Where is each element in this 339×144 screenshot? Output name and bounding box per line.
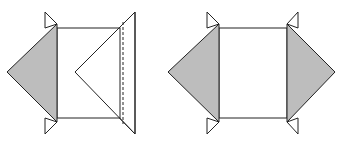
square-face xyxy=(219,28,287,118)
right-shaded-triangle xyxy=(287,24,335,122)
left-shaded-triangle xyxy=(7,24,57,122)
left-shaded-triangle xyxy=(168,24,219,122)
square-face xyxy=(57,28,120,118)
right-figure xyxy=(168,12,335,134)
diagram-canvas xyxy=(0,0,339,144)
left-figure xyxy=(7,12,135,134)
diagram-svg xyxy=(0,0,339,144)
